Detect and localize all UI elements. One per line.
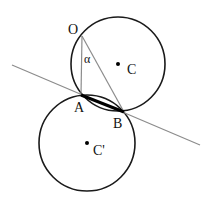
center-c-prime-dot [85,141,89,145]
label-c-prime: C' [93,143,105,158]
center-c-dot [116,62,120,66]
label-c: C [127,62,136,77]
geometry-diagram: O α C A B C' [0,0,212,201]
label-b: B [113,116,122,131]
label-o: O [68,22,78,37]
label-alpha: α [84,52,91,66]
label-a: A [74,100,85,115]
segment-oa [81,36,82,95]
